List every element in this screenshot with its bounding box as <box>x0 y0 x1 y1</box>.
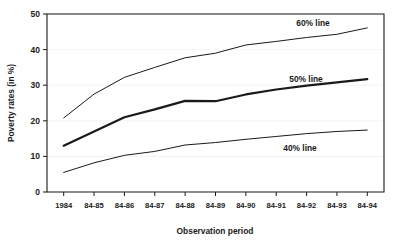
x-tick-label: 84-87 <box>145 201 164 210</box>
gridlines <box>47 14 384 156</box>
chart-svg: 01020304050 198484-8584-8684-8784-8884-8… <box>0 0 397 243</box>
x-tick-label: 1984 <box>55 201 73 210</box>
y-tick-label: 30 <box>31 80 41 90</box>
data-line-40-line <box>64 130 368 172</box>
y-axis-ticks: 01020304050 <box>31 9 47 197</box>
x-tick-label: 84-86 <box>115 201 134 210</box>
x-tick-label: 84-91 <box>267 201 287 210</box>
data-line-50-line <box>64 79 368 146</box>
y-axis-title: Poverty rates (in %) <box>6 64 16 142</box>
y-tick-label: 10 <box>31 151 41 161</box>
plot-frame <box>47 14 384 192</box>
x-tick-label: 84-92 <box>297 201 316 210</box>
data-line-60-line <box>64 28 368 118</box>
y-tick-label: 20 <box>31 116 41 126</box>
series-label-40-line: 40% line <box>283 143 317 153</box>
x-tick-label: 84-94 <box>358 201 378 210</box>
poverty-rates-line-chart: 01020304050 198484-8584-8684-8784-8884-8… <box>0 0 397 243</box>
x-tick-label: 84-89 <box>206 201 225 210</box>
series-label-60-line: 60% line <box>296 18 330 28</box>
y-tick-label: 0 <box>35 187 40 197</box>
series-label-50-line: 50% line <box>289 74 323 84</box>
y-tick-label: 50 <box>31 9 41 19</box>
y-tick-label: 40 <box>31 45 41 55</box>
x-tick-label: 84-85 <box>84 201 104 210</box>
x-tick-label: 84-88 <box>175 201 194 210</box>
x-axis-ticks: 198484-8584-8684-8784-8884-8984-9084-918… <box>55 192 378 210</box>
x-axis-title: Observation period <box>177 226 254 236</box>
x-tick-label: 84-93 <box>327 201 346 210</box>
x-tick-label: 84-90 <box>236 201 255 210</box>
